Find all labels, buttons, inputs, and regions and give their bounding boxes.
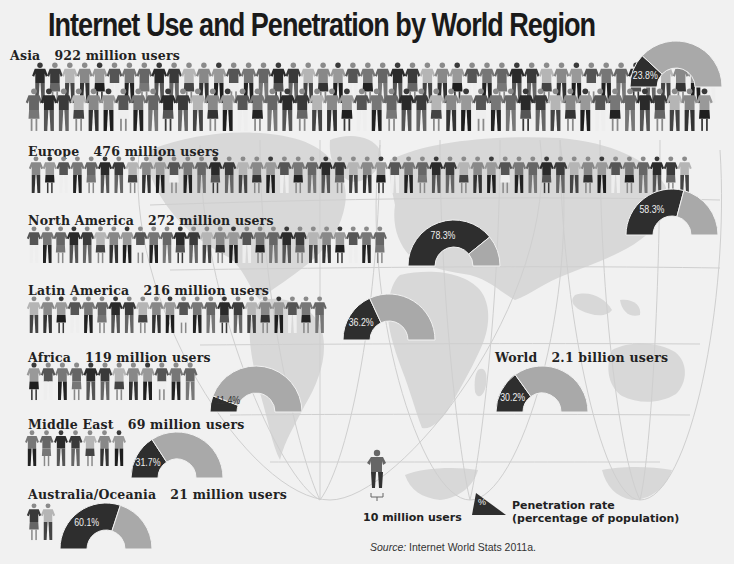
- penetration-label: 58.3%: [639, 203, 664, 215]
- source-note: Source: Internet World Stats 2011a.: [370, 541, 536, 553]
- penetration-label: 36.2%: [349, 316, 374, 328]
- gauge-europe: 58.3%: [626, 189, 718, 235]
- gauge-latin-america: 36.2%: [343, 294, 435, 340]
- legend-gauge-label-line2: (percentage of population): [512, 512, 679, 525]
- gauge-australia-oceania: 60.1%: [60, 503, 152, 549]
- legend-gauge-icon: %: [470, 487, 510, 517]
- legend-person-label: 10 million users: [363, 511, 462, 524]
- gauge-world: 30.2%: [496, 366, 588, 412]
- gauge-africa: 11.4%: [210, 366, 302, 412]
- penetration-label: 78.3%: [430, 229, 455, 241]
- penetration-label: 31.7%: [136, 456, 161, 468]
- source-prefix: Source:: [370, 541, 406, 553]
- penetration-label: 11.4%: [216, 394, 240, 406]
- svg-text:%: %: [478, 497, 486, 507]
- legend-person-icon: [362, 448, 392, 508]
- gauge-middle-east: 31.7%: [131, 432, 223, 478]
- source-text: Internet World Stats 2011a.: [409, 541, 536, 553]
- penetration-label: 30.2%: [500, 391, 525, 403]
- infographic: Internet Use and Penetration by World Re…: [0, 0, 734, 564]
- gauge-north-america: 78.3%: [408, 220, 500, 266]
- legend-gauge-label-line1: Penetration rate: [512, 499, 679, 512]
- penetration-label: 60.1%: [74, 516, 99, 528]
- gauge-asia: 23.8%: [630, 41, 722, 87]
- penetration-label: 23.8%: [633, 69, 658, 81]
- legend-gauge-label: Penetration rate (percentage of populati…: [512, 499, 679, 525]
